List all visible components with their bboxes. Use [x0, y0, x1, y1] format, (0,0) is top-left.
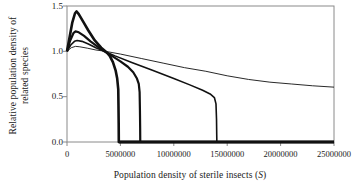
series-line-curve-2-collapse-6.8M — [67, 31, 334, 142]
series-line-curve-1-collapse-4.8M — [67, 11, 334, 142]
axis-ticks — [63, 6, 334, 146]
series-line-curve-3-collapse-14M — [67, 40, 334, 142]
plot-canvas — [0, 0, 358, 192]
plot-frame-rect — [67, 6, 334, 142]
plot-frame — [67, 6, 334, 142]
data-series-group — [67, 11, 334, 142]
chart-figure: Relative population density of related s… — [0, 0, 358, 192]
